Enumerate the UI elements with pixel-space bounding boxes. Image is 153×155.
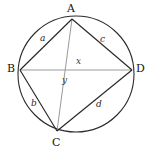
vertex-label-d: D (136, 63, 145, 74)
circumscribed-circle (18, 16, 134, 132)
side-ab (20, 19, 72, 70)
geometry-figure: A B C D a b d c x y (0, 0, 153, 155)
side-label-b: b (31, 99, 37, 108)
diagonal-label-x: x (76, 57, 81, 66)
side-label-a: a (40, 34, 45, 43)
vertex-label-a: A (67, 3, 75, 14)
vertex-label-c: C (52, 137, 60, 148)
side-label-c: c (100, 35, 105, 44)
side-bc (20, 70, 57, 131)
vertex-label-b: B (7, 63, 15, 74)
side-label-d: d (96, 100, 102, 109)
figure-canvas (0, 0, 153, 155)
diagonal-label-y: y (62, 76, 67, 85)
side-cd (57, 70, 132, 131)
